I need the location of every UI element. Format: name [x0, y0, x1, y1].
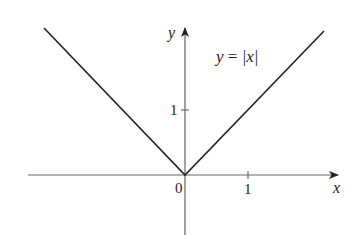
function-label: y = |x|	[214, 47, 259, 66]
abs-value-graph: y x 0 1 1 y = |x|	[0, 0, 353, 235]
abs-value-curve	[44, 28, 324, 175]
x-axis-label: x	[332, 179, 340, 196]
function-label-eq: =	[224, 47, 242, 66]
origin-label: 0	[175, 180, 183, 196]
y-axis-label: y	[166, 24, 176, 42]
function-label-y: y	[214, 47, 224, 66]
x-tick-1-label: 1	[244, 181, 252, 197]
y-tick-1-label: 1	[170, 102, 178, 118]
function-label-abs: |x|	[242, 47, 259, 66]
